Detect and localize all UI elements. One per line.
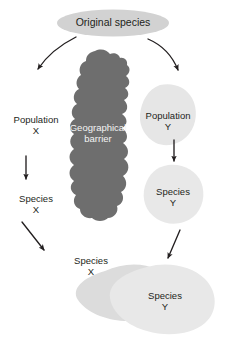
- species-y-bottom-label-line1: Species: [125, 290, 205, 301]
- species-x-bottom-label-line1: Species: [51, 255, 131, 266]
- species-y-middle-label-line1: Species: [133, 186, 213, 197]
- species-y-middle-label-line2: Y: [133, 197, 213, 208]
- population-y-label-line2: Y: [128, 121, 208, 132]
- population-y-label: Population Y: [128, 110, 208, 132]
- population-x-label: Population X: [0, 114, 76, 136]
- species-y-bottom-label: Species Y: [125, 290, 205, 312]
- species-x-bottom-label: Species X: [51, 255, 131, 277]
- arrow-species-y-to-bottom: [168, 230, 180, 258]
- species-x-bottom-label-line2: X: [51, 266, 131, 277]
- species-x-middle-label-line1: Species: [0, 193, 76, 204]
- speciation-diagram: Original species Geographical barrier Po…: [0, 0, 227, 341]
- species-x-middle-label-line2: X: [0, 204, 76, 215]
- species-y-bottom-label-line2: Y: [125, 301, 205, 312]
- species-x-middle-label: Species X: [0, 193, 76, 215]
- population-x-label-line2: X: [0, 125, 76, 136]
- arrow-original-to-population-y: [148, 39, 178, 70]
- species-y-middle-label: Species Y: [133, 186, 213, 208]
- arrow-species-x-to-bottom: [22, 222, 44, 250]
- original-species-label: Original species: [43, 16, 183, 28]
- population-y-label-line1: Population: [128, 110, 208, 121]
- arrow-original-to-population-x: [38, 37, 76, 69]
- population-x-label-line1: Population: [0, 114, 76, 125]
